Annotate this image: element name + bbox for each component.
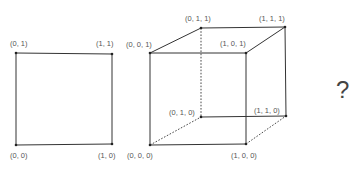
vertex-label: (0, 1, 0): [169, 108, 195, 117]
vertex-dot: [200, 116, 203, 119]
hidden-edge: [246, 116, 286, 144]
vertex-dot: [149, 144, 152, 147]
vertex-label: (0, 1, 1): [185, 14, 211, 23]
edge: [16, 53, 112, 54]
vertex-dot: [200, 27, 203, 30]
vertex-dot: [15, 144, 18, 147]
vertex-dot: [285, 115, 288, 118]
vertex-label: (1, 0, 0): [231, 151, 257, 160]
hypercube-sequence-diagram: (0, 1)(1, 1)(0, 0)(1, 0) (0, 0, 1)(0, 1,…: [0, 0, 360, 171]
vertex-label: (1, 0, 1): [220, 39, 246, 48]
vertex-dot: [15, 52, 18, 55]
vertex-dot: [245, 143, 248, 146]
edge: [201, 116, 286, 117]
edge: [150, 28, 201, 53]
vertex-dot: [111, 143, 114, 146]
unit-cube-figure: (0, 0, 1)(0, 1, 1)(1, 1, 1)(1, 0, 1)(0, …: [126, 14, 287, 160]
edge: [16, 144, 112, 145]
vertex-label: (0, 1): [10, 39, 28, 48]
vertex-label: (0, 0, 0): [127, 151, 153, 160]
vertex-label: (1, 1, 0): [254, 106, 280, 115]
vertex-label: (1, 0): [98, 151, 116, 160]
diagram-canvas: (0, 1)(1, 1)(0, 0)(1, 0) (0, 0, 1)(0, 1,…: [0, 0, 360, 171]
vertex-dot: [245, 52, 248, 55]
edge: [201, 27, 285, 28]
unit-square-figure: (0, 1)(1, 1)(0, 0)(1, 0): [10, 39, 116, 160]
vertex-label: (1, 1): [96, 39, 114, 48]
vertex-label: (0, 0): [10, 151, 28, 160]
edge: [246, 27, 285, 53]
vertex-label: (0, 0, 1): [126, 40, 152, 49]
vertex-dot: [149, 52, 152, 55]
vertex-label: (1, 1, 1): [259, 14, 285, 23]
hidden-edge: [150, 117, 201, 145]
vertex-dot: [284, 26, 287, 29]
edge: [285, 27, 286, 116]
question-mark: ?: [336, 76, 349, 103]
edge: [150, 144, 246, 145]
vertex-dot: [111, 53, 114, 56]
